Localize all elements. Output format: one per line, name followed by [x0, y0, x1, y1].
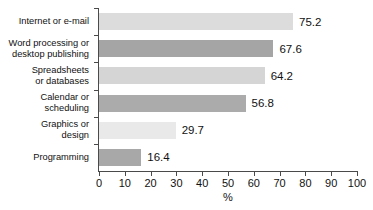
x-axis-tick: [202, 171, 203, 176]
category-label-line: Programming: [33, 152, 89, 163]
category-axis-labels: Internet or e-mailWord processing ordesk…: [0, 8, 93, 171]
y-axis-tick: [94, 62, 99, 63]
y-axis-tick: [94, 35, 99, 36]
bar: [99, 13, 293, 30]
x-axis-tick-label: 50: [222, 177, 234, 189]
x-axis-tick: [228, 171, 229, 176]
bar-value-label: 75.2: [299, 16, 321, 28]
x-axis-tick: [280, 171, 281, 176]
x-axis-tick-label: 30: [170, 177, 182, 189]
x-axis-tick-label: 0: [96, 177, 102, 189]
bar: [99, 122, 176, 139]
category-label: Calendar orscheduling: [0, 90, 93, 117]
category-label-line: design: [62, 130, 89, 141]
x-axis-tick: [254, 171, 255, 176]
bar-row: 67.6: [99, 35, 357, 62]
x-axis-tick: [357, 171, 358, 176]
category-label-line: desktop publishing: [12, 49, 89, 60]
x-axis-tick: [125, 171, 126, 176]
category-label-line: Graphics or: [41, 119, 89, 130]
x-axis-tick-label: 10: [119, 177, 131, 189]
x-axis-tick-label: 20: [144, 177, 156, 189]
x-axis-tick: [176, 171, 177, 176]
bar-value-label: 67.6: [279, 43, 301, 55]
x-axis-tick: [99, 171, 100, 176]
category-label-line: Internet or e-mail: [19, 16, 89, 27]
bar: [99, 40, 273, 57]
bar-row: 56.8: [99, 90, 357, 117]
y-axis-tick: [94, 144, 99, 145]
y-axis-tick: [94, 8, 99, 9]
x-axis-tick-label: 60: [248, 177, 260, 189]
x-axis-tick: [331, 171, 332, 176]
category-label: Graphics ordesign: [0, 117, 93, 144]
bar: [99, 95, 246, 112]
bar-value-label: 56.8: [252, 97, 274, 109]
bar-row: 64.2: [99, 62, 357, 89]
x-axis-tick-label: 80: [299, 177, 311, 189]
x-axis-tick: [151, 171, 152, 176]
category-label: Programming: [0, 144, 93, 171]
bar-rows: 75.267.664.256.829.716.4: [99, 8, 357, 171]
category-label: Word processing ordesktop publishing: [0, 35, 93, 62]
bar-chart: Internet or e-mailWord processing ordesk…: [0, 0, 373, 210]
x-axis-tick-label: 100: [348, 177, 366, 189]
bar-row: 29.7: [99, 117, 357, 144]
x-axis-tick-label: 40: [196, 177, 208, 189]
bar-row: 16.4: [99, 144, 357, 171]
x-axis-tick-label: 90: [325, 177, 337, 189]
bar: [99, 149, 141, 166]
bar-value-label: 29.7: [182, 124, 204, 136]
bar: [99, 67, 265, 84]
y-axis-tick: [94, 117, 99, 118]
bar-value-label: 16.4: [147, 151, 169, 163]
category-label-line: Spreadsheets: [32, 65, 89, 76]
x-axis-tick: [305, 171, 306, 176]
category-label: Spreadsheetsor databases: [0, 62, 93, 89]
category-label-line: scheduling: [45, 103, 89, 114]
bar-value-label: 64.2: [271, 70, 293, 82]
x-axis-tick-labels: 0102030405060708090100: [99, 177, 357, 190]
x-axis-tick-label: 70: [273, 177, 285, 189]
x-axis-ticks: [99, 171, 357, 176]
category-label-line: Word processing or: [9, 38, 89, 49]
category-label-line: or databases: [35, 76, 89, 87]
plot-area: 75.267.664.256.829.716.4: [99, 8, 357, 171]
category-label-line: Calendar or: [40, 92, 89, 103]
category-label: Internet or e-mail: [0, 8, 93, 35]
y-axis-tick: [94, 90, 99, 91]
bar-row: 75.2: [99, 8, 357, 35]
x-axis-title: %: [99, 191, 357, 203]
